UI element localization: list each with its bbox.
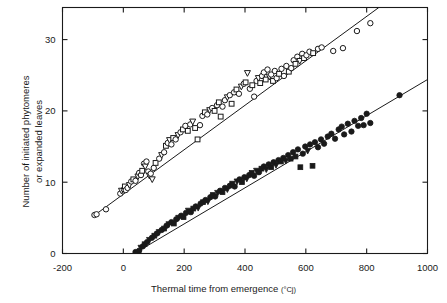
data-point-square (311, 51, 316, 56)
data-point-triangle-down (244, 71, 250, 77)
data-point-circle (161, 150, 166, 155)
data-point-circle (354, 28, 359, 33)
x-axis-label: Thermal time from emergence (°Cj) (0, 283, 447, 294)
x-tick-label-600: 600 (298, 262, 314, 273)
data-point-circle (368, 20, 373, 25)
x-tick-label-200: 200 (176, 262, 192, 273)
y-tick-label-0: 0 (50, 248, 55, 259)
data-point-circle (281, 73, 286, 78)
plot-frame (63, 8, 428, 254)
leaf-expansion-fit (136, 80, 428, 253)
data-point-circle (251, 173, 256, 178)
data-point-circle (331, 48, 336, 53)
y-axis-label: Number of initiated phytomeres or expand… (20, 32, 45, 252)
data-point-circle (352, 118, 357, 123)
data-point-circle (345, 121, 350, 126)
data-point-square (218, 114, 223, 119)
x-axis-unit: (°Cj) (281, 285, 296, 294)
data-point-circle (148, 171, 153, 176)
data-point-circle (251, 94, 256, 99)
data-point-circle (144, 159, 149, 164)
data-point-square (293, 61, 298, 66)
data-point-circle (265, 67, 270, 72)
x-tick-label-800: 800 (359, 262, 375, 273)
data-point-square (243, 80, 248, 85)
data-point-square (263, 77, 268, 82)
data-point-circle (236, 91, 241, 96)
data-point-circle (349, 129, 354, 134)
data-point-square (258, 81, 263, 86)
data-point-square (298, 165, 303, 170)
data-point-square (140, 168, 145, 173)
data-point-circle (319, 45, 324, 50)
data-point-circle (295, 147, 300, 152)
x-tick-label-400: 400 (237, 262, 253, 273)
data-point-square (269, 165, 274, 170)
data-point-circle (340, 45, 345, 50)
y-axis-label-line1: Number of initiated phytomeres (20, 76, 31, 208)
data-point-square (277, 71, 282, 76)
data-point-square (240, 180, 245, 185)
x-axis-label-text: Thermal time from emergence (151, 283, 278, 294)
data-point-circle (361, 122, 366, 127)
figure-container: -200020040060080010000102030 Number of i… (0, 0, 447, 303)
data-point-circle (312, 140, 317, 145)
axis-ticks: -200020040060080010000102030 (45, 8, 438, 273)
data-point-circle (341, 132, 346, 137)
data-point-circle (300, 151, 305, 156)
data-point-circle (332, 136, 337, 141)
data-point-circle (169, 142, 174, 147)
data-point-circle (315, 145, 320, 150)
data-point-square (195, 137, 200, 142)
data-point-circle (339, 124, 344, 129)
data-point-circle (94, 212, 99, 217)
data-point-circle (197, 122, 202, 127)
data-point-square (250, 83, 255, 88)
data-point-circle (355, 123, 360, 128)
data-point-square (212, 108, 217, 113)
data-point-circle (397, 93, 402, 98)
data-point-square (216, 100, 221, 105)
data-point-circle (321, 141, 326, 146)
y-axis-label-line2: or expanded leaves (32, 100, 43, 183)
data-point-circle (368, 120, 373, 125)
data-point-triangle-down (149, 177, 155, 183)
y-tick-label-30: 30 (45, 34, 56, 45)
data-point-square (185, 128, 190, 133)
data-point-square (310, 163, 315, 168)
y-tick-label-10: 10 (45, 177, 56, 188)
data-point-circle (103, 207, 108, 212)
plot-area (92, 8, 428, 256)
data-point-square (288, 156, 293, 161)
data-point-square (293, 154, 298, 159)
y-tick-label-20: 20 (45, 105, 56, 116)
data-point-circle (232, 184, 237, 189)
x-tick-label--200: -200 (53, 262, 72, 273)
data-point-circle (364, 111, 369, 116)
data-point-circle (358, 115, 363, 120)
data-point-circle (220, 104, 225, 109)
data-point-square (153, 161, 158, 166)
scatter-plot: -200020040060080010000102030 (0, 0, 447, 303)
data-point-circle (151, 165, 156, 170)
x-tick-label-0: 0 (121, 262, 126, 273)
data-point-square (229, 101, 234, 106)
data-point-square (193, 126, 198, 131)
data-point-circle (329, 131, 334, 136)
x-tick-label-1000: 1000 (417, 262, 438, 273)
